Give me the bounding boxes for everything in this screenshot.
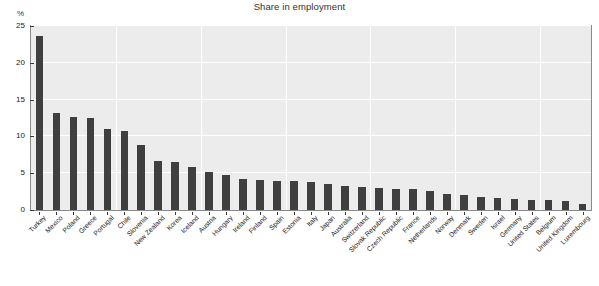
bar[interactable] xyxy=(307,182,315,210)
bar[interactable] xyxy=(104,129,112,210)
bar[interactable] xyxy=(290,181,298,210)
y-axis-tick-label: 25 xyxy=(16,21,25,30)
bar[interactable] xyxy=(341,186,349,210)
x-axis-tick-label: Mexico xyxy=(44,214,64,234)
bar[interactable] xyxy=(53,113,61,210)
y-axis-tick-mark xyxy=(30,210,34,211)
bar[interactable] xyxy=(477,197,485,210)
bar[interactable] xyxy=(579,204,587,210)
x-axis-tick-label-text: Italy xyxy=(305,214,319,228)
bar[interactable] xyxy=(443,194,451,210)
bar[interactable] xyxy=(171,162,179,210)
bar[interactable] xyxy=(222,175,230,210)
bar[interactable] xyxy=(188,167,196,210)
x-axis-tick-label-text: Mexico xyxy=(44,214,64,234)
bar[interactable] xyxy=(324,184,332,210)
employment-share-bar-chart: Share in employment % 0510152025 TurkeyM… xyxy=(0,0,599,286)
y-axis-unit-label: % xyxy=(17,9,24,18)
x-axis-tick-label: Italy xyxy=(305,214,319,228)
bar[interactable] xyxy=(426,191,434,210)
y-axis-tick-label: 15 xyxy=(16,95,25,104)
bar[interactable] xyxy=(494,198,502,210)
bar[interactable] xyxy=(87,118,95,210)
bar[interactable] xyxy=(121,131,129,210)
chart-title: Share in employment xyxy=(0,1,599,12)
x-axis-tick-label: Finland xyxy=(247,214,268,235)
bar[interactable] xyxy=(409,189,417,210)
x-axis-tick-label-text: Iceland xyxy=(180,214,200,234)
x-axis-labels: TurkeyMexicoPolandGreecePortugalChileSlo… xyxy=(31,214,591,286)
bar-series xyxy=(31,26,591,210)
bar[interactable] xyxy=(137,145,145,210)
bar[interactable] xyxy=(154,161,162,210)
bar[interactable] xyxy=(205,172,213,210)
bar[interactable] xyxy=(273,181,281,210)
bar[interactable] xyxy=(36,36,44,210)
y-axis-labels: 0510152025 xyxy=(0,25,30,211)
bar[interactable] xyxy=(460,195,468,210)
bar[interactable] xyxy=(239,179,247,210)
bar[interactable] xyxy=(375,188,383,210)
bar[interactable] xyxy=(511,199,519,210)
y-axis-tick-label: 20 xyxy=(16,58,25,67)
bar[interactable] xyxy=(70,117,78,210)
bar[interactable] xyxy=(545,200,553,210)
y-axis-tick-label: 0 xyxy=(21,205,25,214)
y-axis-tick-label: 10 xyxy=(16,131,25,140)
x-axis-tick-label: Iceland xyxy=(180,214,200,234)
bar[interactable] xyxy=(392,189,400,210)
bar[interactable] xyxy=(528,200,536,210)
bar[interactable] xyxy=(256,180,264,210)
y-axis-tick-label: 5 xyxy=(21,168,25,177)
bar[interactable] xyxy=(358,187,366,210)
bar[interactable] xyxy=(562,201,570,210)
x-axis-tick-label-text: Finland xyxy=(247,214,268,235)
